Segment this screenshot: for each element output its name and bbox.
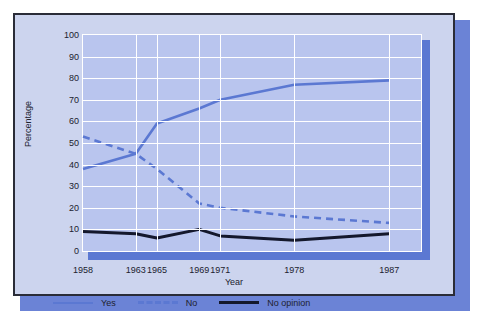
gridline-horizontal	[83, 229, 421, 230]
plot-region	[82, 34, 422, 252]
y-tick-label: 80	[55, 74, 79, 83]
gridline-horizontal	[83, 100, 421, 101]
legend-item[interactable]: Yes	[53, 298, 116, 308]
legend-swatch-icon	[138, 298, 178, 308]
y-tick-label: 60	[55, 117, 79, 126]
y-tick-label: 30	[55, 182, 79, 191]
x-tick-label: 1963	[126, 265, 146, 275]
chart-legend: YesNoNo opinion	[53, 295, 453, 311]
legend-swatch-icon	[219, 298, 259, 308]
gridline-vertical	[294, 35, 295, 251]
x-tick-label: 1987	[379, 265, 399, 275]
gridline-horizontal	[83, 121, 421, 122]
plot-base-slab	[88, 252, 430, 260]
x-tick-label: 1958	[73, 265, 93, 275]
series-line	[83, 80, 389, 169]
chart-area: 1009080706050403020100 19581963196519691…	[15, 15, 453, 294]
y-tick-label: 100	[55, 31, 79, 40]
x-tick-label: 1965	[147, 265, 167, 275]
chart-card: 1009080706050403020100 19581963196519691…	[13, 13, 455, 296]
x-tick-label: 1969	[189, 265, 209, 275]
gridline-vertical	[220, 35, 221, 251]
gridline-vertical	[389, 35, 390, 251]
y-axis-ticks: 1009080706050403020100	[51, 34, 79, 252]
series-line	[83, 137, 389, 223]
y-tick-label: 50	[55, 139, 79, 148]
chart-page: 1009080706050403020100 19581963196519691…	[0, 0, 487, 327]
legend-item[interactable]: No	[138, 298, 198, 308]
gridline-horizontal	[83, 78, 421, 79]
gridline-horizontal	[83, 208, 421, 209]
y-tick-label: 0	[55, 247, 79, 256]
gridline-horizontal	[83, 143, 421, 144]
gridline-horizontal	[83, 57, 421, 58]
legend-swatch-icon	[53, 298, 93, 308]
gridline-horizontal	[83, 165, 421, 166]
legend-label: Yes	[101, 298, 116, 308]
legend-item[interactable]: No opinion	[219, 298, 310, 308]
legend-label: No	[186, 298, 198, 308]
y-tick-label: 90	[55, 52, 79, 61]
series-line	[83, 229, 389, 240]
y-tick-label: 40	[55, 160, 79, 169]
x-tick-label: 1978	[284, 265, 304, 275]
gridline-horizontal	[83, 186, 421, 187]
gridline-vertical	[136, 35, 137, 251]
x-axis-label: Year	[15, 277, 453, 287]
legend-label: No opinion	[267, 298, 310, 308]
y-tick-label: 20	[55, 203, 79, 212]
y-axis-label: Percentage	[23, 84, 33, 164]
x-axis-ticks: 1958196319651969197119781987	[15, 265, 453, 277]
gridline-vertical	[157, 35, 158, 251]
x-tick-label: 1971	[210, 265, 230, 275]
y-tick-label: 10	[55, 225, 79, 234]
plot-side-slab	[422, 40, 430, 260]
gridline-vertical	[199, 35, 200, 251]
y-tick-label: 70	[55, 95, 79, 104]
